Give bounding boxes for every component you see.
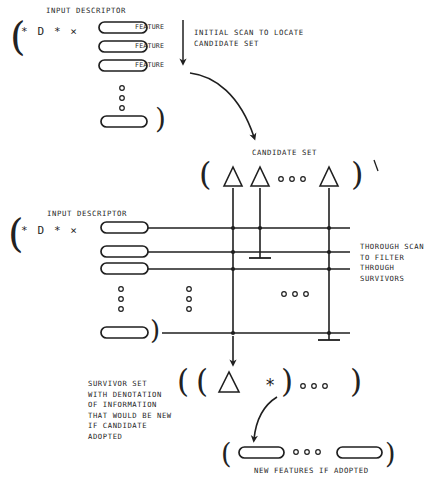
scan-grid-columns	[233, 188, 329, 340]
feature-pill-last	[101, 327, 148, 338]
top-close-paren: )	[155, 105, 166, 133]
new-feature-pills	[239, 447, 382, 458]
scan-grid-rows	[148, 228, 350, 333]
mid-descriptor-notation: * D * ×	[21, 224, 79, 237]
feature-pill	[101, 246, 148, 257]
mid-input-descriptor-title: INPUT DESCRIPTOR	[47, 209, 127, 220]
grid-junction-dots	[231, 226, 331, 335]
survivor-ellipsis	[301, 384, 328, 389]
mid-close-paren: )	[150, 317, 160, 343]
grid-center-ellipsis	[282, 292, 309, 297]
feature-label-2: FEATURE	[135, 42, 164, 50]
feature-pill	[101, 263, 148, 274]
candidate-ellipsis	[279, 177, 306, 182]
initial-scan-annotation: INITIAL SCAN TO LOCATE CANDIDATE SET	[194, 28, 304, 49]
feature-label-1: FEATURE	[135, 23, 164, 31]
new-feature-curved-arrow	[254, 397, 277, 439]
survivor-asterisk: *	[265, 377, 275, 394]
candidate-triangle	[251, 167, 269, 186]
survivor-set-annotation: SURVIVOR SET WITH DENOTATION OF INFORMAT…	[88, 379, 172, 443]
candidate-triangle	[224, 167, 242, 186]
new-feature-pill	[239, 447, 284, 458]
column-end-caps	[249, 258, 340, 340]
candidate-open-paren: (	[199, 158, 211, 190]
new-features-close-paren: )	[385, 440, 396, 467]
survivor-outer-open-paren: (	[177, 366, 189, 397]
mid-vertical-ellipsis-left	[119, 287, 124, 312]
feature-pill	[101, 222, 148, 233]
top-vertical-ellipsis	[120, 86, 125, 111]
new-features-label: NEW FEATURES IF ADOPTED	[254, 466, 369, 477]
new-feature-ellipsis	[294, 450, 321, 455]
candidate-set-label: CANDIDATE SET	[252, 148, 317, 159]
locate-candidate-curved-arrow	[190, 73, 254, 137]
new-features-open-paren: (	[221, 440, 232, 467]
diagram-canvas: ( ) ( ) ( ) ( ( ) ) * ( ) INPUT DESCRIPT…	[0, 0, 438, 484]
feature-pill-last	[101, 116, 147, 127]
survivor-inner-open-paren: (	[196, 366, 208, 397]
top-input-descriptor-title: INPUT DESCRIPTOR	[46, 6, 126, 17]
survivor-outer-close-paren: )	[350, 366, 362, 397]
top-descriptor-notation: * D * ×	[21, 25, 79, 38]
survivor-inner-close-paren: )	[281, 366, 293, 397]
thorough-scan-annotation: THOROUGH SCAN TO FILTER THROUGH SURVIVOR…	[360, 242, 424, 284]
mid-feature-pills	[101, 222, 148, 338]
candidate-close-paren: )	[351, 158, 363, 190]
new-feature-pill	[337, 447, 382, 458]
top-feature-pills	[99, 22, 147, 127]
feature-label-3: FEATURE	[135, 61, 164, 69]
tick-mark	[374, 160, 378, 171]
mid-vertical-ellipsis-right	[187, 287, 192, 312]
survivor-triangle	[219, 372, 239, 392]
candidate-triangle	[320, 167, 338, 186]
